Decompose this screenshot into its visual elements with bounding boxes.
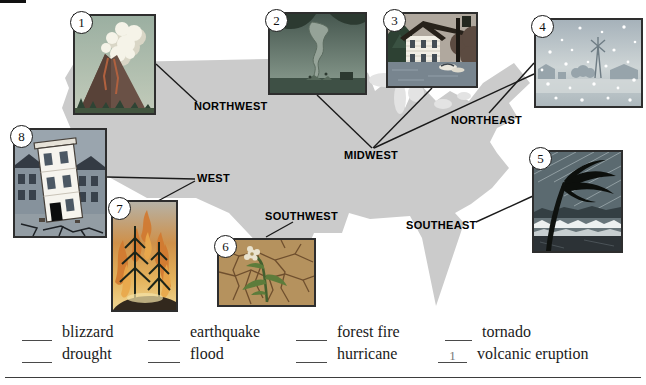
word-bank-item: drought xyxy=(22,344,112,363)
answer-blank[interactable] xyxy=(148,325,180,341)
card-number-badge: 5 xyxy=(529,147,552,170)
label-southeast: SOUTHEAST xyxy=(406,219,477,231)
worksheet-page: NORTHWEST MIDWEST NORTHEAST WEST SOUTHWE… xyxy=(0,0,646,385)
label-northeast: NORTHEAST xyxy=(451,114,522,126)
word-label: flood xyxy=(190,346,224,363)
bottom-rule xyxy=(5,377,641,378)
card-flood: 3 xyxy=(386,12,478,88)
card-number-badge: 4 xyxy=(531,15,554,38)
answer-blank[interactable]: 1 xyxy=(438,347,467,363)
card-number-badge: 1 xyxy=(70,11,93,34)
word-label: forest fire xyxy=(337,324,400,341)
label-southwest: SOUTHWEST xyxy=(265,210,338,222)
word-bank-item: tornado xyxy=(445,322,531,341)
card-forest-fire: 7 xyxy=(111,200,178,312)
page-edge-mark xyxy=(0,0,26,3)
card-hurricane: 5 xyxy=(532,150,623,253)
word-bank-item: forest fire xyxy=(296,322,400,341)
word-label: tornado xyxy=(482,324,531,341)
answer-blank[interactable] xyxy=(296,347,327,363)
card-number-badge: 6 xyxy=(214,235,237,258)
word-label: drought xyxy=(62,346,112,363)
card-number-badge: 8 xyxy=(10,125,33,148)
word-label: hurricane xyxy=(337,346,397,363)
answer-blank[interactable] xyxy=(22,347,52,363)
earthquake-illustration xyxy=(15,130,105,236)
label-west: WEST xyxy=(197,172,230,184)
line-hurricane-southeast xyxy=(476,196,533,222)
card-number-badge: 3 xyxy=(383,9,406,32)
card-number-badge: 2 xyxy=(265,9,288,32)
answer-blank[interactable] xyxy=(296,325,327,341)
label-midwest: MIDWEST xyxy=(344,149,398,161)
word-label: volcanic eruption xyxy=(477,346,589,363)
word-label: earthquake xyxy=(190,324,260,341)
card-blizzard: 4 xyxy=(534,18,643,108)
card-tornado: 2 xyxy=(268,12,367,95)
card-number-badge: 7 xyxy=(108,197,131,220)
word-bank-item: flood xyxy=(148,344,224,363)
word-bank-item: earthquake xyxy=(148,322,260,341)
card-drought: 6 xyxy=(217,238,316,307)
word-bank-item: blizzard xyxy=(22,322,114,341)
word-label: blizzard xyxy=(62,324,114,341)
card-earthquake: 8 xyxy=(13,128,107,238)
label-northwest: NORTHWEST xyxy=(194,100,268,112)
answer-blank[interactable] xyxy=(148,347,180,363)
answer-blank[interactable] xyxy=(22,325,52,341)
answer-blank[interactable] xyxy=(445,325,472,341)
card-volcanic-eruption: 1 xyxy=(73,14,156,115)
word-bank-item: 1 volcanic eruption xyxy=(438,344,589,363)
word-bank-item: hurricane xyxy=(296,344,397,363)
